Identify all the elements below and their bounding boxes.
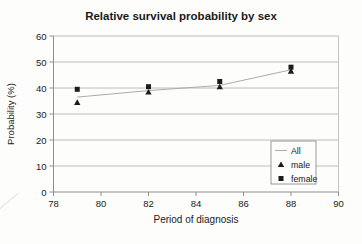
series-male bbox=[74, 68, 294, 105]
x-tick-label-90: 90 bbox=[333, 198, 344, 209]
legend-label-female: female bbox=[291, 174, 318, 184]
legend-marker-square bbox=[279, 176, 284, 181]
data-point-female-79 bbox=[75, 87, 80, 92]
x-tick-label-80: 80 bbox=[96, 198, 107, 209]
x-tick-label-78: 78 bbox=[48, 198, 59, 209]
y-tick-labels: 0102030405060 bbox=[36, 31, 47, 198]
x-tick-label-84: 84 bbox=[191, 198, 202, 209]
x-tick-labels: 78808284868890 bbox=[48, 198, 344, 209]
data-point-female-85 bbox=[217, 79, 222, 84]
y-tick-label-20: 20 bbox=[36, 135, 47, 146]
series-all bbox=[77, 70, 291, 97]
legend-label-all: All bbox=[291, 146, 301, 156]
data-point-male-82 bbox=[145, 89, 151, 95]
data-point-female-82 bbox=[146, 84, 151, 89]
data-point-female-88 bbox=[289, 65, 294, 70]
chart-title: Relative survival probability by sex bbox=[85, 10, 277, 22]
y-tick-label-10: 10 bbox=[36, 161, 47, 172]
legend-label-male: male bbox=[291, 160, 310, 170]
chart-canvas: Relative survival probability by sex Pro… bbox=[0, 0, 362, 244]
x-tick-label-82: 82 bbox=[143, 198, 154, 209]
x-tick-label-88: 88 bbox=[286, 198, 297, 209]
series-layer bbox=[74, 65, 294, 105]
x-tick-label-86: 86 bbox=[238, 198, 249, 209]
legend: Allmalefemale bbox=[271, 141, 318, 184]
series-line-all bbox=[77, 70, 291, 97]
y-tick-label-0: 0 bbox=[41, 187, 46, 198]
y-tick-label-60: 60 bbox=[36, 31, 47, 42]
y-tick-label-30: 30 bbox=[36, 109, 47, 120]
x-axis-title: Period of diagnosis bbox=[153, 214, 238, 225]
y-tick-label-50: 50 bbox=[36, 57, 47, 68]
y-axis-title: Probability (%) bbox=[5, 83, 16, 145]
y-tick-label-40: 40 bbox=[36, 83, 47, 94]
chart-figure: Relative survival probability by sex Pro… bbox=[0, 0, 362, 244]
data-point-male-79 bbox=[74, 99, 80, 105]
